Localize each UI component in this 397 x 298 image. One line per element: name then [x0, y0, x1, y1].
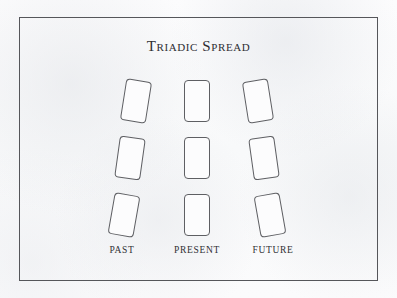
tarot-card-future-middle[interactable]: [248, 135, 280, 180]
tarot-card-past-middle[interactable]: [114, 135, 146, 180]
column-label-future: FUTURE: [252, 245, 293, 255]
column-label-past: PAST: [109, 245, 134, 255]
tarot-card-past-bottom[interactable]: [108, 192, 141, 238]
spread-page: Triadic Spread PASTPRESENTFUTURE: [0, 0, 397, 298]
column-labels: PASTPRESENTFUTURE: [0, 245, 397, 261]
tarot-card-future-top[interactable]: [242, 78, 274, 124]
column-label-present: PRESENT: [174, 245, 220, 255]
tarot-card-past-top[interactable]: [120, 78, 152, 124]
tarot-card-present-top[interactable]: [184, 80, 210, 122]
tarot-card-future-bottom[interactable]: [254, 192, 287, 238]
tarot-card-present-bottom[interactable]: [184, 194, 210, 236]
tarot-card-present-middle[interactable]: [184, 137, 210, 179]
